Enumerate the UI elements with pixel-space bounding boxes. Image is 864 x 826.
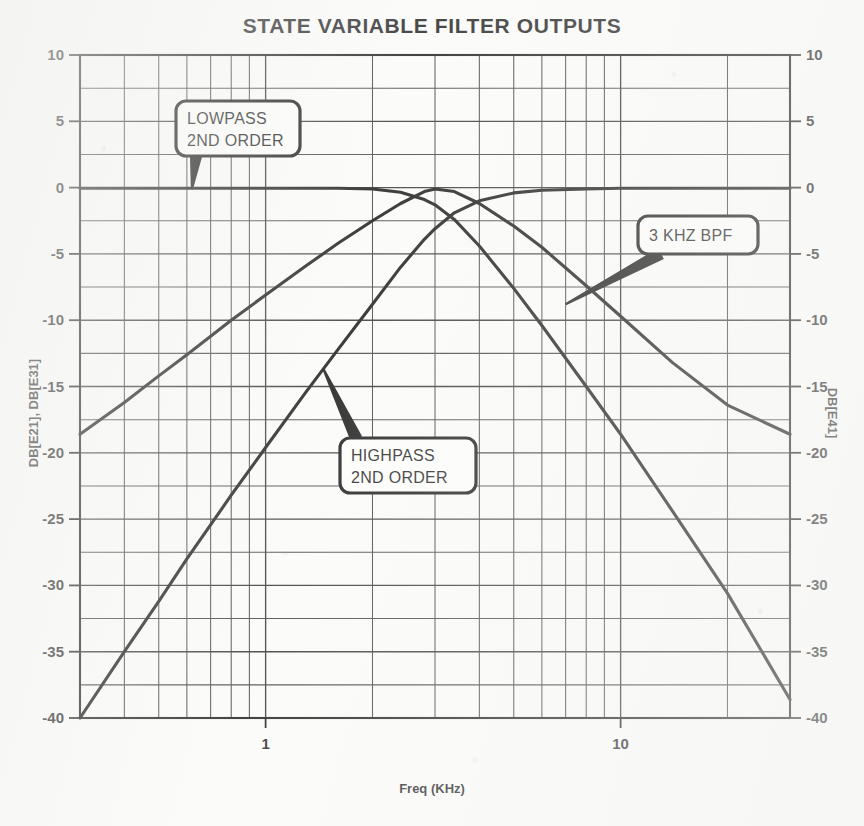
left-tick-label: -40: [42, 709, 64, 726]
right-tick-label: -25: [806, 510, 828, 527]
chart-figure: STATE VARIABLE FILTER OUTPUTS 1050-5-10-…: [0, 0, 864, 826]
left-tick-label: 0: [56, 179, 64, 196]
right-axis-title: DB[E41]: [825, 388, 840, 439]
left-axis-title: DB[E21], DB[E31]: [26, 359, 41, 467]
right-tick-label: -15: [806, 378, 828, 395]
x-tick-label: 1: [261, 735, 269, 752]
left-tick-label: -25: [42, 510, 64, 527]
right-tick-label: -20: [806, 444, 828, 461]
left-tick-label: -5: [51, 245, 64, 262]
left-axis-tick-labels: 1050-5-10-15-20-25-30-35-40: [42, 46, 64, 726]
left-tick-label: -20: [42, 444, 64, 461]
x-axis-title: Freq (KHz): [399, 781, 465, 796]
right-tick-label: 0: [806, 179, 814, 196]
right-axis-tick-labels: 1050-5-10-15-20-25-30-35-40: [806, 46, 828, 726]
chart-title: STATE VARIABLE FILTER OUTPUTS: [243, 14, 622, 37]
left-tick-label: -30: [42, 576, 64, 593]
x-tick-label: 10: [612, 735, 629, 752]
right-tick-label: 5: [806, 112, 814, 129]
callout-label-lowpass: 2ND ORDER: [187, 132, 284, 149]
bottom-axis-ticks: [266, 718, 621, 728]
left-axis-ticks: [69, 55, 80, 718]
callout-leader-bandpass: [566, 250, 663, 305]
right-tick-label: -5: [806, 245, 819, 262]
callout-label-highpass: 2ND ORDER: [351, 469, 448, 486]
left-tick-label: -15: [42, 378, 64, 395]
callout-label-highpass: HIGHPASS: [351, 447, 435, 464]
bottom-axis-tick-labels: 110: [261, 735, 629, 752]
left-tick-label: -35: [42, 643, 64, 660]
callout-leader-highpass: [323, 368, 361, 440]
callout-label-bandpass: 3 KHZ BPF: [649, 227, 733, 244]
callout-label-lowpass: LOWPASS: [187, 110, 267, 127]
right-tick-label: -30: [806, 576, 828, 593]
right-tick-label: 10: [806, 46, 823, 63]
right-tick-label: -10: [806, 311, 828, 328]
left-tick-label: 10: [47, 46, 64, 63]
callout-leader-lowpass: [191, 155, 201, 189]
state-variable-filter-chart: STATE VARIABLE FILTER OUTPUTS 1050-5-10-…: [0, 0, 864, 826]
right-axis-ticks: [790, 55, 801, 718]
left-tick-label: 5: [56, 112, 64, 129]
left-tick-label: -10: [42, 311, 64, 328]
right-tick-label: -35: [806, 643, 828, 660]
right-tick-label: -40: [806, 709, 828, 726]
